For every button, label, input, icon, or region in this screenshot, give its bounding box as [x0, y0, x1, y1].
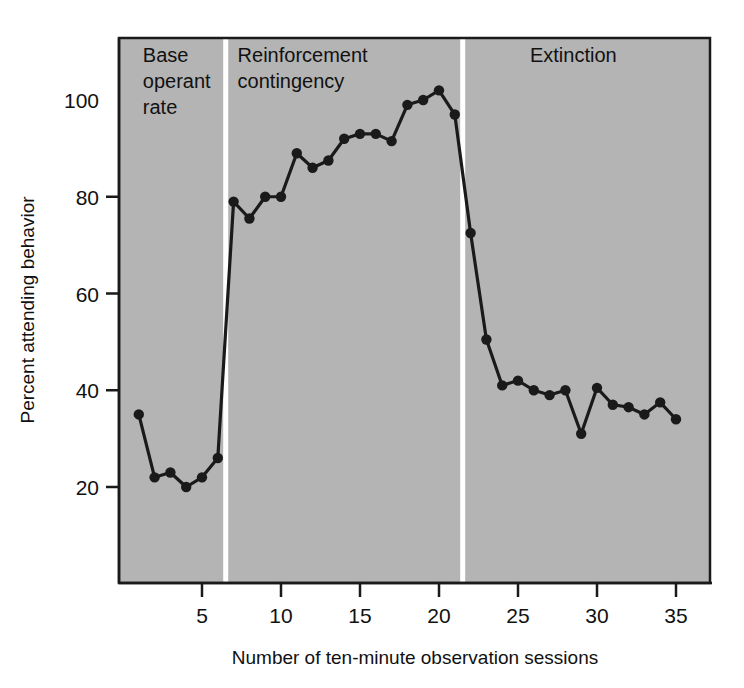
phase-divider: [460, 40, 465, 582]
y-tick-label: 80: [76, 186, 99, 209]
data-point: [608, 400, 618, 410]
data-point: [623, 402, 633, 412]
data-point: [244, 213, 254, 223]
data-point: [276, 192, 286, 202]
data-point: [165, 467, 175, 477]
data-point: [450, 109, 460, 119]
plot-background: [119, 38, 710, 583]
phase-label-extinction: Extinction: [530, 44, 617, 66]
data-point: [671, 414, 681, 424]
data-point: [355, 129, 365, 139]
data-point: [560, 385, 570, 395]
y-axis-title: Percent attending behavior: [17, 196, 38, 424]
data-point: [418, 95, 428, 105]
data-point: [292, 148, 302, 158]
data-point: [529, 385, 539, 395]
data-point: [323, 155, 333, 165]
data-point: [402, 100, 412, 110]
data-point: [639, 409, 649, 419]
data-point: [149, 472, 159, 482]
data-point: [197, 472, 207, 482]
data-point: [181, 482, 191, 492]
data-point: [213, 453, 223, 463]
data-point: [307, 163, 317, 173]
data-point: [592, 383, 602, 393]
x-axis-title: Number of ten-minute observation session…: [232, 647, 598, 668]
data-point: [576, 429, 586, 439]
y-axis-ticks: 20406080100: [64, 89, 119, 499]
x-tick-label: 35: [664, 604, 687, 627]
x-tick-label: 10: [269, 604, 292, 627]
x-tick-label: 30: [585, 604, 608, 627]
data-point: [434, 85, 444, 95]
y-tick-label: 60: [76, 283, 99, 306]
x-tick-label: 15: [348, 604, 371, 627]
data-point: [481, 334, 491, 344]
data-point: [134, 409, 144, 419]
data-point: [513, 375, 523, 385]
data-point: [465, 228, 475, 238]
x-tick-label: 5: [196, 604, 208, 627]
attending-behavior-chart: BaseoperantrateReinforcementcontingencyE…: [0, 0, 744, 688]
data-point: [386, 136, 396, 146]
x-tick-label: 20: [427, 604, 450, 627]
data-point: [228, 196, 238, 206]
x-axis-ticks: 5101520253035: [196, 583, 688, 627]
data-point: [655, 397, 665, 407]
data-point: [260, 192, 270, 202]
y-tick-label: 20: [76, 476, 99, 499]
data-point: [497, 380, 507, 390]
data-point: [371, 129, 381, 139]
data-point: [544, 390, 554, 400]
y-tick-label: 100: [64, 89, 99, 112]
data-point: [339, 134, 349, 144]
x-tick-label: 25: [506, 604, 529, 627]
y-tick-label: 40: [76, 379, 99, 402]
